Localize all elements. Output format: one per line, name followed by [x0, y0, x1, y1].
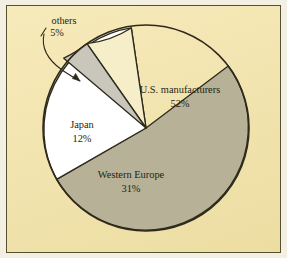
japan-label-pct: 12%	[72, 133, 91, 144]
europe-label-name: Western Europe	[98, 169, 165, 180]
pie-chart-figure: others 5% U.S. manufacturers 52% Japan 1…	[0, 0, 287, 258]
others-label-pct: 5%	[50, 27, 64, 38]
pie-chart-svg: others 5% U.S. manufacturers 52% Japan 1…	[0, 0, 287, 258]
us-label-name: U.S. manufacturers	[140, 84, 221, 95]
others-label-name: others	[52, 15, 77, 26]
others-label: others 5%	[50, 15, 76, 38]
us-label-pct: 52%	[170, 98, 189, 109]
japan-label-name: Japan	[70, 119, 94, 130]
europe-label-pct: 31%	[121, 183, 140, 194]
